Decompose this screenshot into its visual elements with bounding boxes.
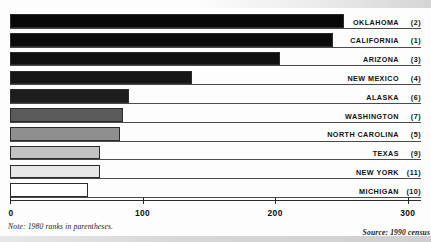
bar xyxy=(10,183,88,197)
bar-fill xyxy=(10,127,120,141)
bar-label-state: MICHIGAN xyxy=(359,187,399,196)
bar-fill xyxy=(10,14,344,28)
bar-label: ALASKA(6) xyxy=(366,93,421,102)
bar-label: NEW MEXICO(4) xyxy=(347,74,421,83)
bar-label-state: ARIZONA xyxy=(363,55,399,64)
row-baseline xyxy=(10,141,421,142)
bar-label-state: ALASKA xyxy=(366,93,399,102)
row-baseline xyxy=(10,159,421,160)
bar-label-rank: (9) xyxy=(399,149,421,158)
bar-label-state: CALIFORNIA xyxy=(350,36,399,45)
x-axis-tick-label: 0 xyxy=(8,208,13,218)
bar-fill xyxy=(10,33,333,47)
bar xyxy=(10,108,123,122)
bar-fill xyxy=(10,71,192,85)
bar-label-state: NEW MEXICO xyxy=(347,74,399,83)
bar-label-rank: (7) xyxy=(399,112,421,121)
scan-artifact-top xyxy=(0,0,431,8)
bar xyxy=(10,165,100,179)
x-axis-tick xyxy=(275,197,276,204)
bar-label-state: NEW YORK xyxy=(356,168,399,177)
bar xyxy=(10,146,100,160)
bar-label: ARIZONA(3) xyxy=(363,55,421,64)
bar-label-rank: (4) xyxy=(399,74,421,83)
bar-label-rank: (11) xyxy=(399,168,421,177)
bar-fill xyxy=(10,165,100,179)
scan-artifact-bottom xyxy=(0,236,431,242)
bar-chart-figure: OKLAHOMA(2)CALIFORNIA(1)ARIZONA(3)NEW ME… xyxy=(0,0,431,242)
bar xyxy=(10,14,344,28)
chart-note: Note: 1980 ranks in parentheses. xyxy=(8,222,113,231)
bar-label: WASHINGTON(7) xyxy=(345,112,421,121)
bar xyxy=(10,127,120,141)
bar-label-rank: (5) xyxy=(399,130,421,139)
bar-label-rank: (3) xyxy=(399,55,421,64)
x-axis-tick xyxy=(408,197,409,204)
bar-label: NEW YORK(11) xyxy=(356,168,421,177)
bar-label: OKLAHOMA(2) xyxy=(353,18,421,27)
bar-label-state: OKLAHOMA xyxy=(353,18,399,27)
row-baseline xyxy=(10,47,421,48)
bar-label: MICHIGAN(10) xyxy=(359,187,421,196)
x-axis-tick-label: 100 xyxy=(135,208,150,218)
row-baseline xyxy=(10,65,421,66)
bar-fill xyxy=(10,183,88,197)
bar-label-state: TEXAS xyxy=(373,149,399,158)
row-baseline xyxy=(10,178,421,179)
bar-fill xyxy=(10,89,129,103)
bar-label-rank: (10) xyxy=(399,187,421,196)
row-baseline xyxy=(10,197,421,198)
bar-label: TEXAS(9) xyxy=(373,149,421,158)
bar-label: CALIFORNIA(1) xyxy=(350,36,421,45)
row-baseline xyxy=(10,103,421,104)
bar-label-state: WASHINGTON xyxy=(345,112,399,121)
bar xyxy=(10,71,192,85)
bar-fill xyxy=(10,146,100,160)
row-baseline xyxy=(10,122,421,123)
bar xyxy=(10,89,129,103)
bar-label-rank: (1) xyxy=(399,36,421,45)
x-axis-tick-label: 300 xyxy=(400,208,415,218)
bar xyxy=(10,33,333,47)
x-axis-line xyxy=(10,200,421,201)
bar-fill xyxy=(10,108,123,122)
bar-label-state: NORTH CAROLINA xyxy=(327,130,399,139)
bar-label-rank: (6) xyxy=(399,93,421,102)
bar-label-rank: (2) xyxy=(399,18,421,27)
x-axis-tick-label: 200 xyxy=(268,208,283,218)
bar xyxy=(10,52,280,66)
row-baseline xyxy=(10,84,421,85)
row-baseline xyxy=(10,28,421,29)
bar-fill xyxy=(10,52,280,66)
plot-area: OKLAHOMA(2)CALIFORNIA(1)ARIZONA(3)NEW ME… xyxy=(10,12,421,200)
axis-origin-tick xyxy=(10,196,11,204)
bar-label: NORTH CAROLINA(5) xyxy=(327,130,421,139)
x-axis-tick xyxy=(143,197,144,204)
